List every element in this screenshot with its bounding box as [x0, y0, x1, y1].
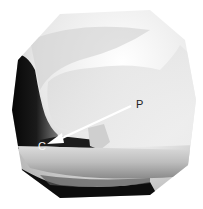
- radiograph-image: [0, 0, 203, 209]
- label-p: P: [136, 99, 143, 110]
- radiograph-figure: P C: [0, 0, 203, 209]
- label-c: C: [38, 141, 46, 152]
